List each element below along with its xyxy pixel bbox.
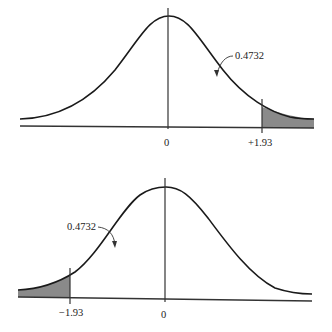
arrowhead-icon	[214, 70, 219, 77]
bottom-center-label: 0	[161, 309, 166, 320]
bottom-area-label: 0.4732	[67, 221, 96, 232]
arrowhead-icon	[112, 241, 117, 248]
top-cut-label: +1.93	[248, 137, 272, 148]
top-curve	[20, 16, 314, 119]
normal-curves-diagram: 0.4732 0 +1.93 0.4732 −1.93 0	[0, 0, 332, 332]
top-center-label: 0	[164, 137, 169, 148]
bottom-cut-label: −1.93	[59, 307, 83, 318]
top-figure: 0.4732 0 +1.93	[20, 8, 314, 148]
top-area-label: 0.4732	[235, 50, 264, 61]
bottom-figure: 0.4732 −1.93 0	[18, 178, 312, 320]
